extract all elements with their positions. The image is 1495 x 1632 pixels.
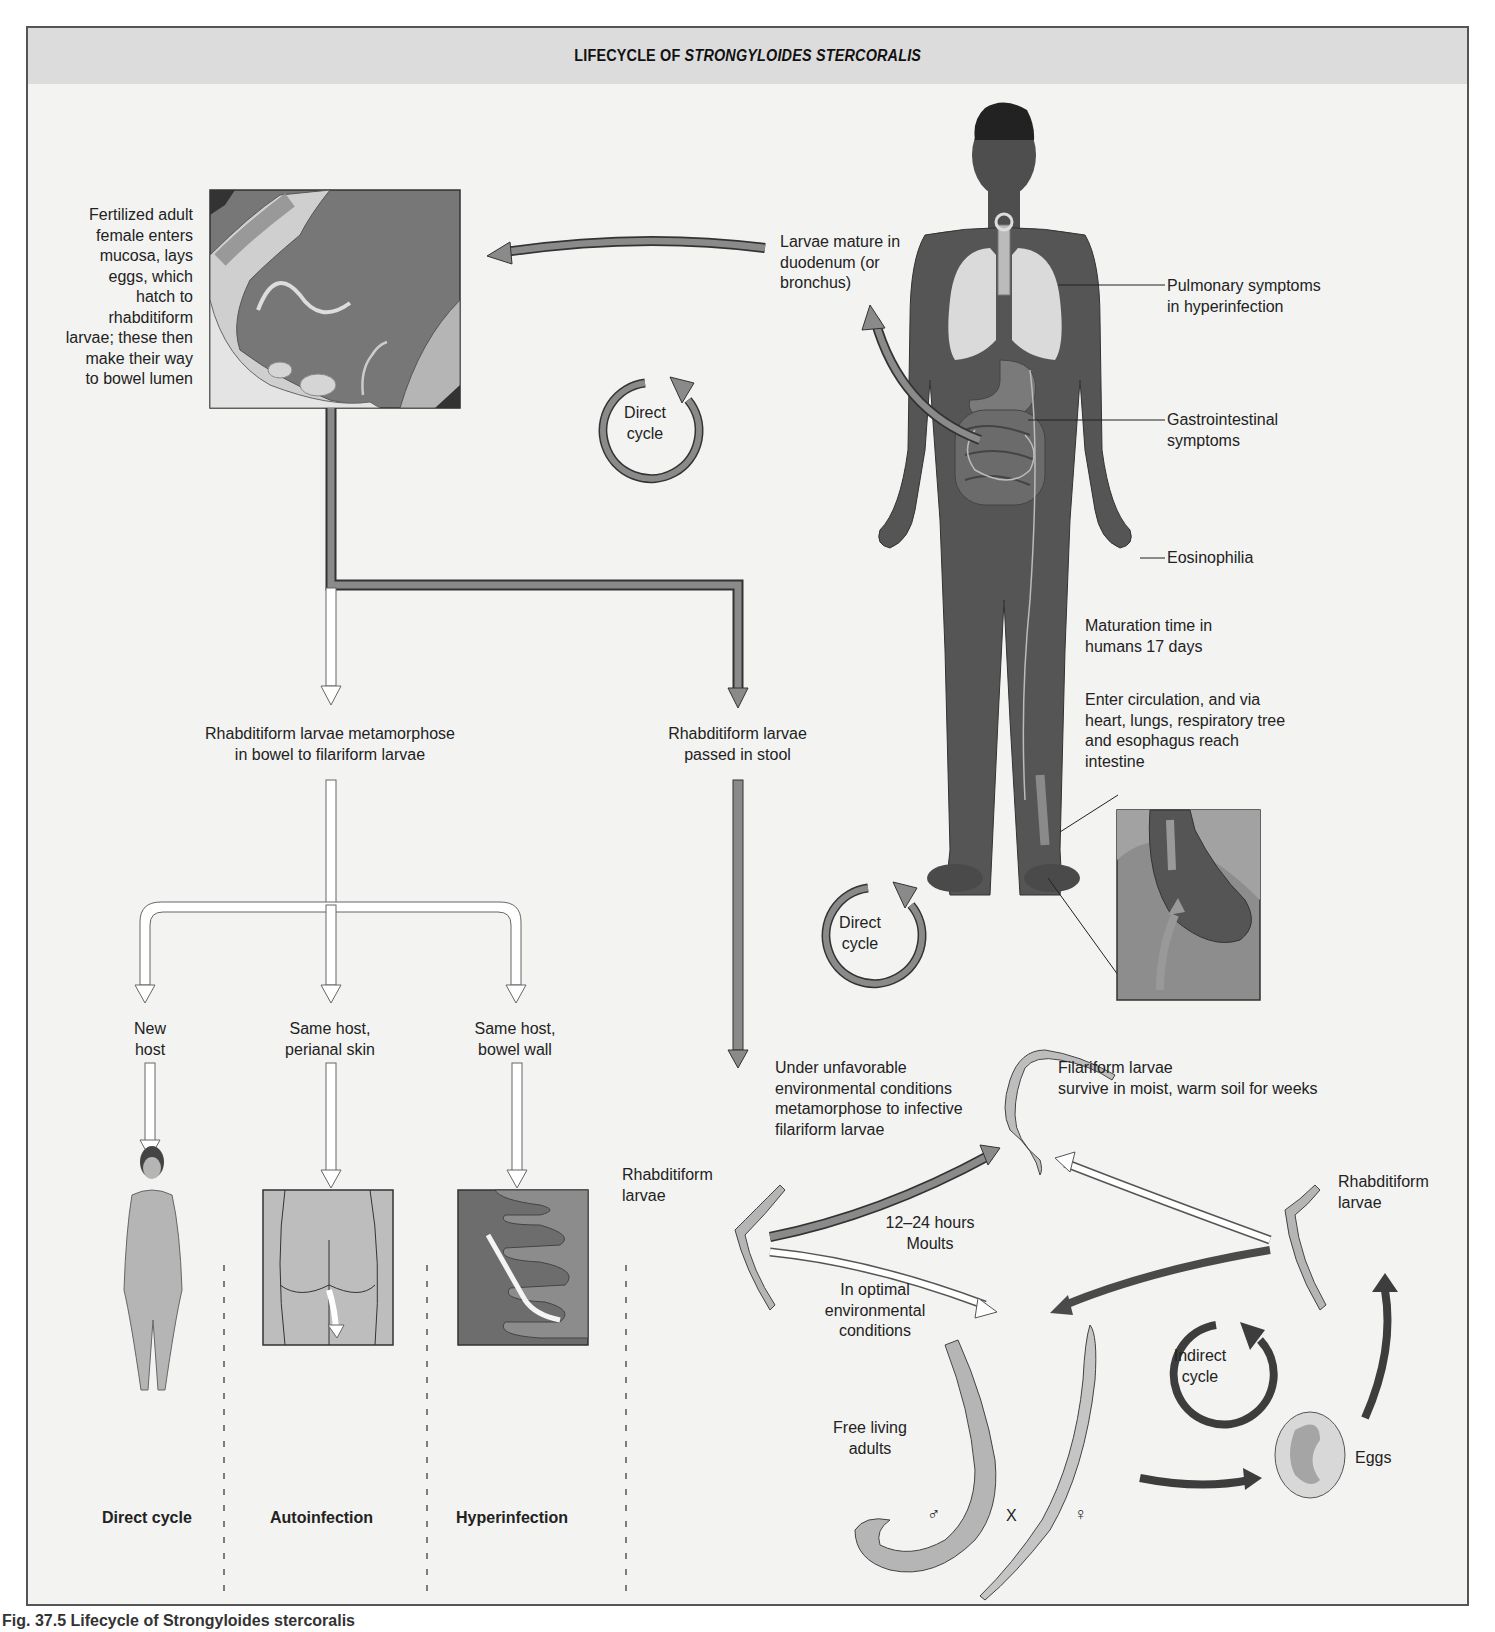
label-gastrointestinal-symptoms: Gastrointestinal symptoms — [1167, 410, 1278, 451]
egg-illustration — [1275, 1412, 1345, 1498]
label-passed-in-stool: Rhabditiform larvae passed in stool — [640, 724, 835, 765]
label-bottom-direct-cycle: Direct cycle — [102, 1508, 192, 1529]
text-line: Moults — [870, 1234, 990, 1255]
bowel-wall-inset — [458, 1190, 588, 1345]
text-line: Indirect — [1165, 1346, 1235, 1367]
arrow-eggs-to-rhabditiform — [1365, 1273, 1398, 1418]
text-line: Rhabditiform — [622, 1165, 713, 1186]
text-line: larvae; these then — [40, 328, 193, 349]
text-line: symptoms — [1167, 431, 1278, 452]
text-line: cycle — [615, 424, 675, 445]
text-line: Enter circulation, and via — [1085, 690, 1285, 711]
text-line: duodenum (or — [780, 253, 900, 274]
text-line: make their way — [40, 349, 193, 370]
hollow-arrow-metamorphose — [321, 588, 341, 705]
label-free-living-adults: Free living adults — [820, 1418, 920, 1459]
text-line: cycle — [1165, 1367, 1235, 1388]
text-line: Fertilized adult — [40, 205, 193, 226]
label-pulmonary-symptoms: Pulmonary symptoms in hyperinfection — [1167, 276, 1321, 317]
label-bowel-wall: Same host, bowel wall — [455, 1019, 575, 1060]
male-symbol: ♂ — [927, 1504, 941, 1525]
label-rhabditiform-larvae-left: Rhabditiform larvae — [622, 1165, 713, 1206]
text-line: perianal skin — [270, 1040, 390, 1061]
label-perianal-skin: Same host, perianal skin — [270, 1019, 390, 1060]
text-line: heart, lungs, respiratory tree — [1085, 711, 1285, 732]
text-line: Filariform larvae — [1058, 1058, 1318, 1079]
label-optimal-conditions: In optimal environmental conditions — [815, 1280, 935, 1342]
label-fertilized-female: Fertilized adult female enters mucosa, l… — [40, 205, 193, 390]
text-line: Free living — [820, 1418, 920, 1439]
cross-symbol: X — [1006, 1506, 1017, 1527]
text-line: Gastrointestinal — [1167, 410, 1278, 431]
label-direct-cycle-top: Direct cycle — [615, 403, 675, 444]
text-line: Same host, — [270, 1019, 390, 1040]
text-line: to bowel lumen — [40, 369, 193, 390]
diagram-graphics — [0, 0, 1495, 1632]
label-unfavorable-conditions: Under unfavorable environmental conditio… — [775, 1058, 963, 1140]
text-line: environmental — [815, 1301, 935, 1322]
text-line: survive in moist, warm soil for weeks — [1058, 1079, 1318, 1100]
text-line: mucosa, lays — [40, 246, 193, 267]
stool-arrow-down — [728, 780, 748, 1068]
label-moults: 12–24 hours Moults — [870, 1213, 990, 1254]
text-line: bronchus) — [780, 273, 900, 294]
text-line: Direct — [830, 913, 890, 934]
text-line: Larvae mature in — [780, 232, 900, 253]
text-line: eggs, which — [40, 267, 193, 288]
arrow-to-mucosa — [487, 241, 765, 264]
text-line: adults — [820, 1439, 920, 1460]
text-line: Rhabditiform larvae — [640, 724, 835, 745]
label-enter-circulation: Enter circulation, and via heart, lungs,… — [1085, 690, 1285, 772]
female-worm — [980, 1325, 1096, 1600]
label-new-host: New host — [110, 1019, 190, 1060]
text-line: bowel wall — [455, 1040, 575, 1061]
label-rhabditiform-larvae-right: Rhabditiform larvae — [1338, 1172, 1429, 1213]
label-bottom-autoinfection: Autoinfection — [270, 1508, 373, 1529]
human-body-figure — [879, 102, 1132, 895]
text-line: intestine — [1085, 752, 1285, 773]
label-direct-cycle-middle: Direct cycle — [830, 913, 890, 954]
hollow-arrow-right-to-filariform — [1055, 1152, 1270, 1240]
label-bottom-hyperinfection: Hyperinfection — [456, 1508, 568, 1529]
text-line: New — [110, 1019, 190, 1040]
text-line: host — [110, 1040, 190, 1061]
text-line: Maturation time in — [1085, 616, 1212, 637]
new-host-woman-figure — [124, 1146, 182, 1390]
leg-arrow — [1040, 775, 1045, 845]
figure-caption: Fig. 37.5 Lifecycle of Strongyloides ste… — [2, 1612, 355, 1630]
text-line: metamorphose to infective — [775, 1099, 963, 1120]
arrow-adults-to-eggs — [1140, 1468, 1262, 1490]
perianal-skin-inset — [263, 1190, 393, 1345]
label-eosinophilia: Eosinophilia — [1167, 548, 1253, 569]
text-line: larvae — [1338, 1193, 1429, 1214]
text-line: Same host, — [455, 1019, 575, 1040]
text-line: Under unfavorable — [775, 1058, 963, 1079]
hollow-arrows-split — [135, 780, 527, 1188]
label-indirect-cycle: Indirect cycle — [1165, 1346, 1235, 1387]
stool-path-arrow — [331, 408, 748, 708]
foot-inset — [1117, 810, 1260, 1000]
text-line: In optimal — [815, 1280, 935, 1301]
bowel-mucosa-illustration — [210, 190, 460, 408]
dark-arrow-to-free-living — [1050, 1250, 1270, 1315]
text-line: Rhabditiform larvae metamorphose — [180, 724, 480, 745]
label-filariform-survive: Filariform larvae survive in moist, warm… — [1058, 1058, 1318, 1099]
text-line: conditions — [815, 1321, 935, 1342]
rhabditiform-larva-right — [1285, 1185, 1326, 1310]
text-line: Rhabditiform — [1338, 1172, 1429, 1193]
text-line: larvae — [622, 1186, 713, 1207]
female-symbol: ♀ — [1074, 1504, 1088, 1525]
text-line: cycle — [830, 934, 890, 955]
text-line: rhabditiform — [40, 308, 193, 329]
text-line: and esophagus reach — [1085, 731, 1285, 752]
text-line: environmental conditions — [775, 1079, 963, 1100]
label-maturation-time: Maturation time in humans 17 days — [1085, 616, 1212, 657]
text-line: female enters — [40, 226, 193, 247]
text-line: in bowel to filariform larvae — [180, 745, 480, 766]
text-line: hatch to — [40, 287, 193, 308]
label-metamorphose-bowel: Rhabditiform larvae metamorphose in bowe… — [180, 724, 480, 765]
label-larvae-mature: Larvae mature in duodenum (or bronchus) — [780, 232, 900, 294]
text-line: filariform larvae — [775, 1120, 963, 1141]
text-line: in hyperinfection — [1167, 297, 1321, 318]
text-line: Direct — [615, 403, 675, 424]
